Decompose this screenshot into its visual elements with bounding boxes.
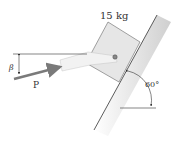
mass-label: 15 kg xyxy=(100,10,129,21)
force-label: P xyxy=(33,80,39,90)
force-p-arrow xyxy=(14,67,60,79)
statics-diagram: 15 kg P β 60° xyxy=(0,0,171,142)
pin-joint xyxy=(113,55,117,59)
incline-angle-label: 60° xyxy=(145,80,159,89)
beta-label: β xyxy=(8,63,14,72)
